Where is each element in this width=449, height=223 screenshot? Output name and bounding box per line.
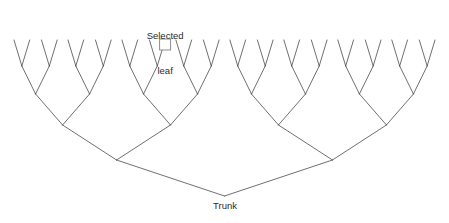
tree-branch: [144, 94, 171, 125]
tree-branch: [413, 66, 427, 94]
tree-branch: [63, 94, 90, 125]
tree-branch: [278, 125, 332, 160]
trunk-annotation: Trunk: [1, 200, 449, 212]
tree-branch: [386, 94, 413, 125]
tree-branch: [400, 66, 414, 94]
tree-branch: [278, 94, 305, 125]
tree-branch: [171, 94, 198, 125]
tree-branch: [359, 94, 386, 125]
selected-leaf-label-line2: leaf: [0, 65, 390, 77]
tree-branch: [400, 40, 408, 66]
tree-branch: [332, 125, 386, 160]
tree-branch: [392, 40, 400, 66]
tree-branch: [117, 125, 171, 160]
tree-branch: [427, 40, 435, 66]
tree-branch: [63, 125, 117, 160]
selected-leaf-label-line1: Selected: [0, 30, 390, 42]
tree-branch: [36, 94, 63, 125]
tree-branch: [251, 94, 278, 125]
tree-branch: [225, 160, 333, 196]
tree-branch: [117, 160, 225, 196]
selected-leaf-annotation: Selected leaf: [0, 7, 390, 88]
tree-branch: [419, 40, 427, 66]
